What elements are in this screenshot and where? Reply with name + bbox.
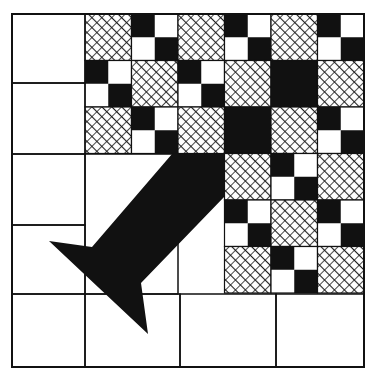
quilt-block-canvas [0, 0, 374, 384]
four-patch [132, 14, 179, 61]
four-patch [85, 61, 132, 108]
hatched-patch [318, 154, 365, 201]
four-patch [178, 61, 225, 108]
quilt-diagram [0, 0, 374, 384]
hatched-patch [225, 61, 272, 108]
four-patch [271, 154, 318, 201]
solid-patch [225, 107, 272, 154]
arrow-icon [49, 154, 225, 334]
hatched-patch [271, 107, 318, 154]
left-col-row-3 [12, 154, 85, 225]
four-patch [318, 107, 365, 154]
hatched-patch [318, 247, 365, 294]
hatched-patch [85, 14, 132, 61]
bottom-row-cell-3 [180, 294, 276, 367]
four-patch [271, 247, 318, 294]
solid-patch [271, 61, 318, 108]
hatched-patch [271, 200, 318, 247]
left-col-row-1 [12, 14, 85, 83]
four-patch [225, 14, 272, 61]
hatched-patch [225, 154, 272, 201]
hatched-patch [178, 107, 225, 154]
four-patch [318, 14, 365, 61]
hatched-patch [225, 247, 272, 294]
left-col-row-5 [12, 294, 85, 367]
hatched-patch [271, 14, 318, 61]
hatched-patch [85, 107, 132, 154]
hatched-patch [178, 14, 225, 61]
four-patch [318, 200, 365, 247]
left-col-row-2 [12, 83, 85, 154]
four-patch [132, 107, 179, 154]
hatched-patch [132, 61, 179, 108]
bottom-row-cell-4 [276, 294, 364, 367]
four-patch [225, 200, 272, 247]
hatched-patch [318, 61, 365, 108]
